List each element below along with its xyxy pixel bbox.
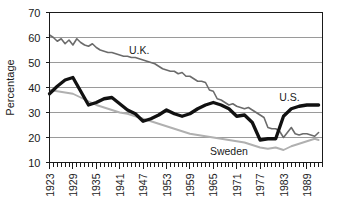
- x-tick-label: 1929: [67, 173, 79, 197]
- y-axis-title: Percentage: [4, 59, 16, 115]
- x-tick-label: 1959: [184, 173, 196, 197]
- x-tick-label: 1977: [254, 173, 266, 197]
- annotation-sweden: Sweden: [210, 145, 248, 157]
- annotation-us: U.S.: [279, 91, 299, 103]
- y-tick-label: 50: [28, 57, 40, 69]
- x-tick-label: 1965: [207, 173, 219, 197]
- x-tick-label: 1935: [90, 173, 102, 197]
- series-line-uk: [50, 35, 319, 138]
- y-tick-label: 60: [28, 32, 40, 44]
- x-tick-label: 1953: [161, 173, 173, 197]
- y-tick-label: 20: [28, 132, 40, 144]
- x-tick-label: 1989: [301, 173, 313, 197]
- annotation-uk: U.K.: [129, 44, 149, 56]
- x-axis-tick-labels: 1923192919351941194719531959196519711977…: [44, 173, 313, 197]
- series-line-us: [50, 78, 319, 141]
- y-axis-tick-labels: 70605040302010: [28, 7, 40, 169]
- x-tick-label: 1923: [44, 173, 56, 197]
- x-tick-label: 1941: [114, 173, 126, 197]
- y-tick-label: 10: [28, 157, 40, 169]
- x-tick-label: 1947: [137, 173, 149, 197]
- line-chart: 70605040302010 1923192919351941194719531…: [0, 0, 347, 219]
- y-tick-label: 40: [28, 82, 40, 94]
- x-tick-label: 1971: [231, 173, 243, 197]
- y-tick-label: 70: [28, 7, 40, 19]
- y-tick-label: 30: [28, 107, 40, 119]
- x-axis-tick-marks: [50, 163, 323, 169]
- chart-container: 70605040302010 1923192919351941194719531…: [0, 0, 347, 219]
- x-tick-label: 1983: [278, 173, 290, 197]
